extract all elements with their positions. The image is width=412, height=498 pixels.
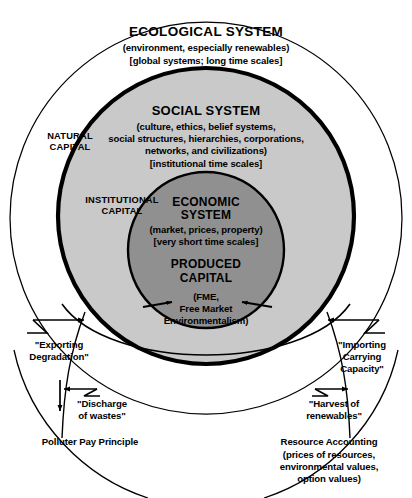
importing-carrying-capacity-label-line3: Capacity" — [316, 363, 408, 374]
exporting-degradation-label-line2: Degradation" — [6, 351, 112, 362]
harvest-of-renewables-label-line1: "Harvest of — [286, 398, 382, 409]
ecological-system-heading: ECOLOGICAL SYSTEM — [0, 24, 412, 40]
resource-accounting-label-line2: (prices of resources, — [254, 449, 404, 460]
natural-capital-label-line2: CAPITAL — [20, 142, 120, 153]
produced-capital-line1: PRODUCED — [0, 258, 412, 272]
resource-accounting-label-line4: option values) — [254, 473, 404, 484]
ecological-system-line2: (environment, especially renewables) — [0, 42, 412, 53]
harvest-of-renewables-arrow — [312, 389, 348, 396]
importing-carrying-capacity-label-line2: Carrying — [316, 351, 408, 362]
exporting-degradation-label-line1: "Exporting — [6, 339, 112, 350]
economic-system-line3: [very short time scales] — [0, 236, 412, 247]
resource-accounting-label-line1: Resource Accounting — [254, 436, 404, 447]
discharge-of-wastes-label-line1: "Discharge — [56, 398, 148, 409]
fme-line2: Free Market — [0, 303, 412, 314]
ecological-system-line3: [global systems; long time scales] — [0, 55, 412, 66]
fme-line1: (FME, — [0, 291, 412, 302]
resource-accounting-label-line3: environmental values, — [254, 461, 404, 472]
social-system-line5: [institutional time scales] — [0, 158, 412, 169]
natural-capital-label-line1: NATURAL — [20, 131, 120, 142]
importing-carrying-capacity-label-line1: "Importing — [316, 339, 408, 350]
polluter-pay-principle-label: Polluter Pay Principle — [10, 436, 170, 447]
produced-capital-line2: CAPITAL — [0, 272, 412, 286]
social-system-heading: SOCIAL SYSTEM — [0, 103, 412, 118]
institutional-capital-label-line2: CAPITAL — [62, 206, 182, 217]
discharge-of-wastes-label-line2: of wastes" — [56, 410, 148, 421]
economic-system-line2: (market, prices, property) — [0, 224, 412, 235]
harvest-of-renewables-label-line2: renewables" — [286, 410, 382, 421]
discharge-of-wastes-arrow — [64, 389, 100, 396]
nested-systems-diagram — [0, 0, 412, 498]
institutional-capital-label-line1: INSTITUTIONAL — [62, 195, 182, 206]
fme-line3: Environmentalism) — [0, 315, 412, 326]
